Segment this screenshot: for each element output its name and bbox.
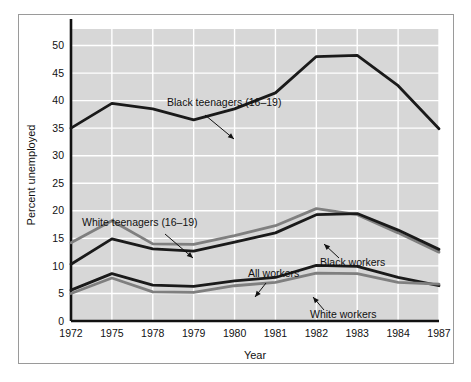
y-tick-label: 15 — [52, 232, 64, 244]
y-tick-label: 50 — [52, 39, 64, 51]
figure-frame: 05101520253035404550 1972197519781979198… — [18, 14, 454, 364]
x-tick-label: 1981 — [264, 327, 288, 339]
x-tick-label: 1975 — [100, 327, 124, 339]
annotation-label-white-teenagers: White teenagers (16–19) — [82, 216, 198, 228]
y-tick-label: 30 — [52, 149, 64, 161]
y-axis-tick-labels: 05101520253035404550 — [52, 39, 64, 326]
y-tick-label: 0 — [58, 315, 64, 327]
y-tick-label: 45 — [52, 67, 64, 79]
x-tick-label: 1983 — [346, 327, 370, 339]
y-axis-title: Percent unemployed — [25, 125, 37, 226]
y-tick-label: 10 — [52, 260, 64, 272]
annotation-label-black-workers: Black workers — [320, 256, 385, 268]
x-tick-label: 1979 — [182, 327, 206, 339]
x-axis-tick-labels: 1972197519781979198019811982198319841987 — [59, 327, 451, 339]
y-tick-label: 25 — [52, 177, 64, 189]
annotation-label-all-workers: All workers — [248, 267, 299, 279]
chart-page: 05101520253035404550 1972197519781979198… — [0, 0, 471, 382]
x-tick-label: 1978 — [141, 327, 165, 339]
y-tick-label: 20 — [52, 204, 64, 216]
annotation-label-black-teenagers: Black teenagers (16–19) — [167, 96, 281, 108]
annotation-label-white-workers: White workers — [310, 308, 377, 320]
x-tick-label: 1987 — [427, 327, 451, 339]
x-tick-label: 1982 — [305, 327, 329, 339]
y-tick-label: 40 — [52, 94, 64, 106]
x-axis-title: Year — [244, 349, 267, 361]
unemployment-line-chart: 05101520253035404550 1972197519781979198… — [19, 15, 453, 363]
y-tick-label: 35 — [52, 122, 64, 134]
y-tick-label: 5 — [58, 287, 64, 299]
x-tick-label: 1984 — [386, 327, 410, 339]
x-tick-label: 1980 — [223, 327, 247, 339]
x-tick-label: 1972 — [59, 327, 83, 339]
